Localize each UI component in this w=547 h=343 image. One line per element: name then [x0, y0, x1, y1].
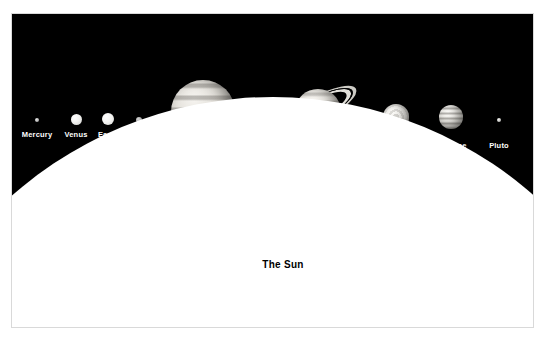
planet-earth	[102, 113, 114, 125]
planet-label-venus: Venus	[64, 130, 87, 139]
solar-system-diagram: Mercury Venus Earth Mars Jupiter Saturn …	[0, 0, 547, 343]
planet-mercury	[35, 118, 39, 122]
planet-label-pluto: Pluto	[489, 141, 509, 150]
planet-pluto	[497, 118, 501, 122]
sun-body	[11, 97, 534, 328]
planet-neptune	[439, 105, 463, 129]
space-background-panel: Mercury Venus Earth Mars Jupiter Saturn …	[11, 13, 534, 328]
sun-label: The Sun	[262, 259, 304, 270]
planet-venus	[71, 114, 82, 125]
planet-label-mercury: Mercury	[22, 130, 53, 139]
